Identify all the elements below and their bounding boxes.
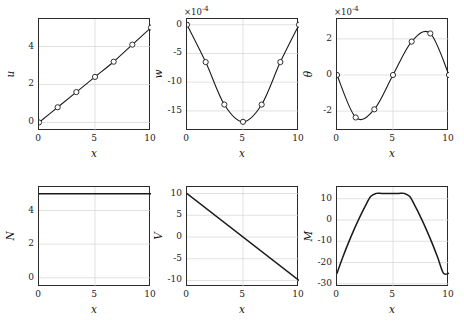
- xtick-label-M: 10: [442, 290, 453, 299]
- gridlines-M: [337, 187, 449, 287]
- xaxis-label-M: x: [389, 303, 395, 315]
- xtick-label-M: 5: [389, 290, 395, 299]
- ytick-label-M: -30: [300, 278, 332, 287]
- plot-canvas-M: [337, 187, 449, 287]
- subplot-M: 0510100-10-20-30xM: [0, 0, 464, 323]
- ytick-label-M: 10: [300, 193, 332, 202]
- ytick-label-M: 0: [300, 214, 332, 223]
- xtick-label-M: 0: [333, 290, 339, 299]
- figure-canvas: 0510024xu05100-5-10-15xw×10-4051020-2xθ×…: [0, 0, 464, 323]
- yaxis-label-M: M: [302, 229, 316, 243]
- plot-area-M: [336, 186, 448, 286]
- ytick-label-M: -20: [300, 257, 332, 266]
